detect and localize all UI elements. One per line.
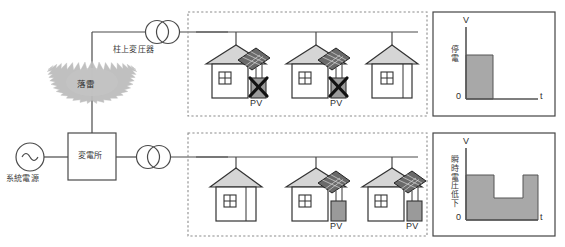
pole-transformer-label: 柱上変圧器: [113, 46, 154, 55]
sag-graph-origin-label: 0: [456, 213, 461, 223]
diagram-canvas: 系統電源 変電所 落雷 柱上変圧器 PV PV PV PV V t 0 停 電 …: [0, 0, 565, 247]
outage-graph-x-label: t: [540, 92, 543, 102]
outage-graph-y-label: V: [463, 16, 469, 26]
house-lower-2: [286, 168, 350, 221]
graph-frame: [433, 12, 555, 116]
sag-graph-x-label: t: [540, 213, 543, 223]
sag-graph-annotation: 瞬 時 電 圧 低 下: [450, 156, 460, 209]
lower-feeder-bus: [196, 157, 418, 170]
pv-label-upper-2: PV: [330, 99, 342, 109]
house-lower-1: [210, 168, 262, 221]
sag-annotation-char-6: 下: [450, 200, 460, 209]
roof: [210, 168, 262, 187]
house-upper-2: [286, 45, 350, 98]
outage-graph: [433, 12, 555, 116]
pv-label-lower-2: PV: [330, 222, 342, 232]
lightning-label: 落雷: [77, 77, 96, 89]
pv-label-upper-1: PV: [250, 99, 262, 109]
pv-inverter-box: [331, 201, 346, 221]
house-lower-3: [362, 168, 426, 221]
house-upper-1: [206, 45, 270, 98]
outage-waveform: [466, 55, 493, 99]
substation-label: 変電所: [78, 152, 103, 161]
roof: [366, 45, 418, 64]
grid-source-label: 系統電源: [6, 175, 39, 184]
upper-feeder-bus: [196, 32, 418, 47]
outage-graph-origin-label: 0: [456, 92, 461, 102]
house-upper-3: [366, 45, 418, 98]
pv-inverter-box: [407, 201, 422, 221]
pv-label-lower-3: PV: [406, 222, 418, 232]
sag-graph-y-label: V: [463, 137, 469, 147]
power-system-diagram: [0, 0, 565, 247]
outage-graph-annotation: 停 電: [450, 46, 460, 64]
outage-annotation-char-2: 電: [450, 55, 460, 64]
